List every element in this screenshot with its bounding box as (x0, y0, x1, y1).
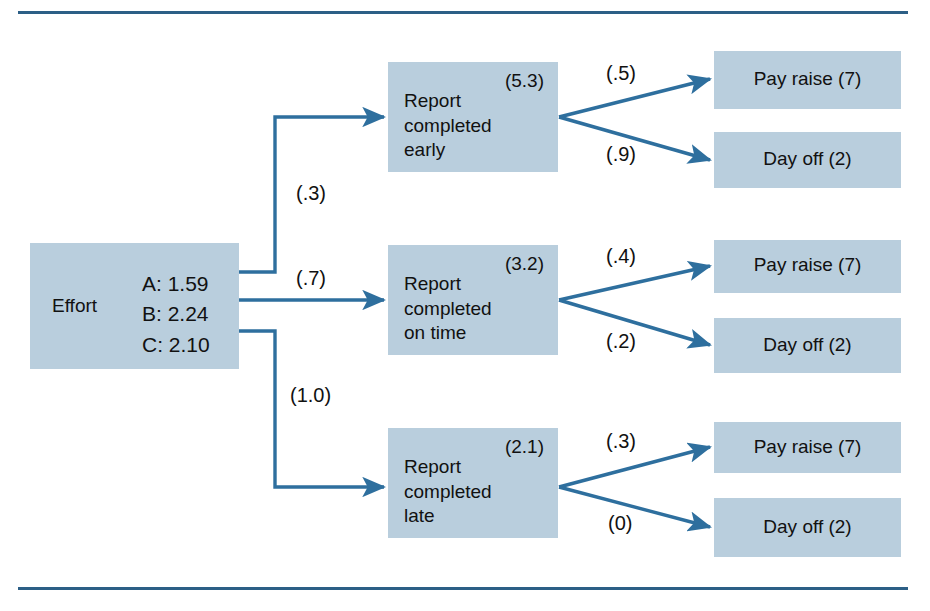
outcome-label: Pay raise (7) (714, 68, 901, 90)
outcome-label: Day off (2) (714, 148, 901, 170)
node-outcome-day-off[interactable]: Day off (2) (714, 132, 901, 188)
node-outcome-day-off[interactable]: Day off (2) (714, 498, 901, 557)
effort-label: Effort (52, 295, 97, 317)
effort-values: A: 1.59 B: 2.24 C: 2.10 (142, 269, 210, 360)
performance-label: Report completed late (404, 455, 492, 529)
edge-late-to-payraise (559, 447, 710, 487)
node-report-completed-on-time[interactable]: Report completed on time (3.2) (388, 245, 558, 355)
outcome-label: Day off (2) (714, 334, 901, 356)
expectancy-theory-diagram: Effort A: 1.59 B: 2.24 C: 2.10 Report co… (0, 0, 930, 611)
performance-value: (2.1) (505, 436, 544, 458)
effort-value-a: A: 1.59 (142, 269, 210, 299)
instrumentality-label-ontime-payraise: (.4) (606, 245, 636, 268)
edge-ontime-to-payraise (559, 266, 710, 300)
edge-effort-to-late (239, 331, 384, 487)
outcome-label: Pay raise (7) (714, 254, 901, 276)
node-outcome-pay-raise[interactable]: Pay raise (7) (714, 240, 901, 293)
outcome-label: Day off (2) (714, 516, 901, 538)
instrumentality-label-early-dayoff: (.9) (606, 143, 636, 166)
edge-late-to-dayoff (559, 487, 710, 527)
node-outcome-pay-raise[interactable]: Pay raise (7) (714, 51, 901, 109)
node-outcome-day-off[interactable]: Day off (2) (714, 318, 901, 373)
instrumentality-label-late-dayoff: (0) (608, 512, 632, 535)
performance-label: Report completed early (404, 89, 492, 163)
outcome-label: Pay raise (7) (714, 436, 901, 458)
expectancy-label-ontime: (.7) (296, 267, 326, 290)
instrumentality-label-early-payraise: (.5) (606, 62, 636, 85)
performance-value: (5.3) (505, 70, 544, 92)
instrumentality-label-late-payraise: (.3) (606, 430, 636, 453)
node-report-completed-late[interactable]: Report completed late (2.1) (388, 428, 558, 538)
node-report-completed-early[interactable]: Report completed early (5.3) (388, 62, 558, 172)
top-rule (18, 11, 908, 14)
node-effort[interactable]: Effort A: 1.59 B: 2.24 C: 2.10 (30, 243, 239, 369)
effort-value-b: B: 2.24 (142, 299, 210, 329)
node-outcome-pay-raise[interactable]: Pay raise (7) (714, 422, 901, 473)
instrumentality-label-ontime-dayoff: (.2) (606, 330, 636, 353)
expectancy-label-early: (.3) (296, 182, 326, 205)
performance-label: Report completed on time (404, 272, 492, 346)
bottom-rule (18, 587, 908, 590)
effort-value-c: C: 2.10 (142, 330, 210, 360)
performance-value: (3.2) (505, 253, 544, 275)
expectancy-label-late: (1.0) (290, 384, 331, 407)
